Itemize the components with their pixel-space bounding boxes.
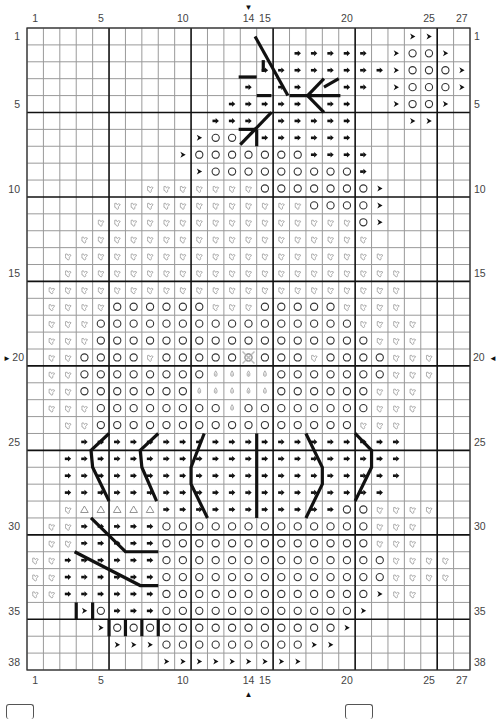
arrow-symbol — [245, 490, 251, 496]
arrow-symbol — [327, 101, 333, 107]
circle-symbol — [163, 523, 170, 530]
leaf-symbol — [410, 389, 416, 395]
leaf-symbol — [229, 254, 235, 260]
circle-symbol — [376, 557, 383, 564]
leaf-symbol — [377, 406, 383, 412]
circle-symbol — [212, 168, 219, 175]
arrow-symbol — [147, 524, 153, 530]
arrow-symbol — [98, 574, 104, 580]
circle-symbol — [425, 100, 432, 107]
circle-symbol — [343, 540, 350, 547]
circle-symbol — [97, 320, 104, 327]
circle-symbol — [360, 506, 367, 513]
leaf-symbol — [410, 338, 416, 344]
leaf-symbol — [180, 203, 186, 209]
chevron-symbol — [394, 50, 399, 56]
leaf-symbol — [180, 288, 186, 294]
circle-symbol — [261, 337, 268, 344]
circle-symbol — [245, 641, 252, 648]
leaf-symbol — [65, 372, 71, 378]
circle-symbol — [327, 421, 334, 428]
leaf-symbol — [377, 541, 383, 547]
circle-symbol — [327, 573, 334, 580]
circle-symbol — [196, 573, 203, 580]
leaf-symbol — [197, 271, 203, 277]
circle-symbol — [196, 607, 203, 614]
arrow-symbol — [377, 490, 383, 496]
circle-symbol — [179, 388, 186, 395]
leaf-symbol — [312, 288, 318, 294]
circle-symbol — [294, 388, 301, 395]
circle-symbol — [327, 405, 334, 412]
leaf-symbol — [426, 355, 432, 361]
arrow-symbol — [262, 490, 268, 496]
leaf-symbol — [82, 271, 88, 277]
backstitch-line — [324, 79, 339, 87]
leaf-symbol — [229, 271, 235, 277]
circle-symbol — [343, 557, 350, 564]
circle-symbol — [311, 624, 318, 631]
leaf-symbol — [312, 355, 318, 361]
leaf-symbol — [361, 271, 367, 277]
leaf-symbol — [361, 321, 367, 327]
circle-symbol — [343, 354, 350, 361]
leaf-symbol — [98, 288, 104, 294]
leaf-symbol — [262, 271, 268, 277]
arrow-symbol — [295, 101, 301, 107]
circle-symbol — [327, 607, 334, 614]
leaf-symbol — [394, 541, 400, 547]
leaf-symbol — [295, 271, 301, 277]
leaf-symbol — [410, 541, 416, 547]
circle-symbol — [343, 607, 350, 614]
circle-symbol — [343, 590, 350, 597]
leaf-symbol — [213, 203, 219, 209]
row-label-right: 38 — [474, 656, 486, 668]
leaf-symbol — [65, 507, 71, 513]
leaf-symbol — [394, 575, 400, 581]
chevron-symbol — [443, 101, 448, 107]
circle-symbol — [261, 573, 268, 580]
arrow-symbol — [245, 84, 251, 90]
chevron-symbol — [262, 659, 267, 665]
leaf-symbol — [115, 254, 121, 260]
leaf-symbol — [147, 237, 153, 243]
circle-symbol — [360, 523, 367, 530]
leaf-symbol — [312, 237, 318, 243]
circle-symbol — [228, 354, 235, 361]
leaf-symbol — [377, 254, 383, 260]
arrow-symbol — [196, 473, 202, 479]
circle-symbol — [228, 624, 235, 631]
leaf-symbol — [426, 372, 432, 378]
leaf-symbol — [361, 237, 367, 243]
arrow-symbol — [327, 135, 333, 141]
column-label-bottom: 10 — [177, 674, 189, 686]
circle-symbol — [327, 540, 334, 547]
leaf-symbol — [312, 254, 318, 260]
leaf-symbol — [131, 271, 137, 277]
circle-symbol — [278, 540, 285, 547]
drop-symbol — [247, 371, 250, 377]
leaf-symbol — [246, 186, 252, 192]
leaf-symbol — [328, 220, 334, 226]
circle-symbol — [261, 151, 268, 158]
leaf-symbol — [164, 254, 170, 260]
circle-symbol — [130, 388, 137, 395]
circle-symbol — [196, 371, 203, 378]
leaf-symbol — [49, 288, 55, 294]
arrow-symbol — [295, 507, 301, 513]
leaf-symbol — [65, 423, 71, 429]
circle-symbol — [343, 388, 350, 395]
leaf-symbol — [229, 203, 235, 209]
leaf-symbol — [82, 304, 88, 310]
arrow-symbol — [212, 456, 218, 462]
circle-symbol — [114, 320, 121, 327]
chevron-symbol — [246, 659, 251, 665]
circle-symbol — [294, 523, 301, 530]
circle-symbol — [311, 405, 318, 412]
leaf-symbol — [344, 304, 350, 310]
leaf-symbol — [262, 220, 268, 226]
arrow-symbol — [377, 67, 383, 73]
circle-symbol — [294, 540, 301, 547]
circle-symbol — [97, 337, 104, 344]
leaf-symbol — [131, 288, 137, 294]
